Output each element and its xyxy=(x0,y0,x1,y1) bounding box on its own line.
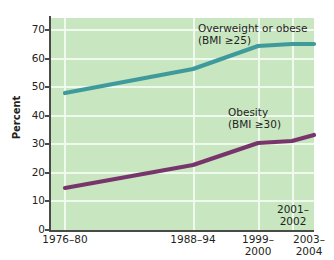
x-tick-label-2001-2002-line1: 2001– xyxy=(265,203,321,215)
x-tick-label-1976-80-line1: 1976–80 xyxy=(36,234,94,246)
x-tick-label-1976-80: 1976–80 xyxy=(36,234,94,246)
series-annotation-obesity-line2: (BMI ≥30) xyxy=(228,118,281,130)
series-annotation-overweight: Overweight or obese (BMI ≥25) xyxy=(198,22,308,46)
x-tick-label-2001-2002: 2001– 2002 xyxy=(265,203,321,227)
series-line-overweight-or-obese xyxy=(65,44,314,93)
series-annotation-overweight-line1: Overweight or obese xyxy=(198,22,308,34)
x-tick-label-1999-2000: 1999– 2000 xyxy=(232,234,284,257)
x-tick-label-1999-2000-line2: 2000 xyxy=(232,246,284,258)
series-line-obesity xyxy=(65,135,314,188)
series-annotation-obesity: Obesity (BMI ≥30) xyxy=(228,106,281,130)
x-tick-label-1988-94: 1988–94 xyxy=(164,234,222,246)
series-annotation-obesity-line1: Obesity xyxy=(228,106,281,118)
x-tick-label-2003-2004-line2: 2004 xyxy=(283,246,334,258)
obesity-trend-chart: 70 60 50 40 30 20 10 0 Percent Overweigh… xyxy=(0,0,334,260)
x-tick-label-2003-2004: 2003– 2004 xyxy=(283,234,334,257)
series-annotation-overweight-line2: (BMI ≥25) xyxy=(198,34,308,46)
x-tick-label-2001-2002-line2: 2002 xyxy=(265,215,321,227)
x-tick-label-2003-2004-line1: 2003– xyxy=(283,234,334,246)
x-tick-label-1988-94-line1: 1988–94 xyxy=(164,234,222,246)
x-tick-label-1999-2000-line1: 1999– xyxy=(232,234,284,246)
